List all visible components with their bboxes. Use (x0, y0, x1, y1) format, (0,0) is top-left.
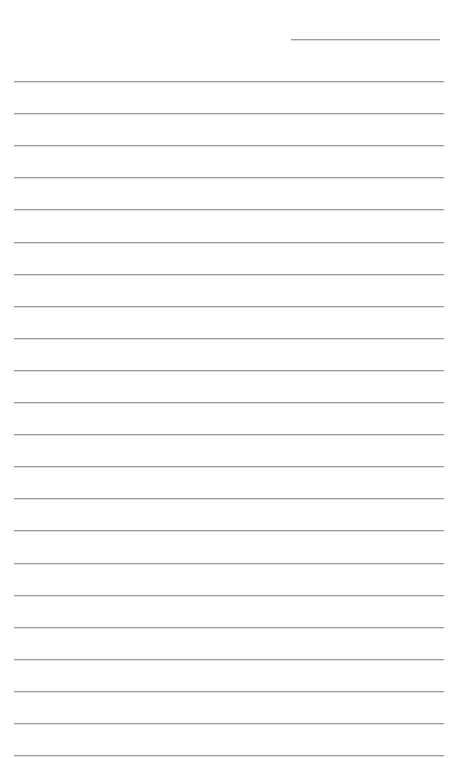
rule-line[interactable] (14, 402, 444, 403)
writing-area (0, 0, 460, 758)
rule-line[interactable] (14, 274, 444, 275)
rule-line[interactable] (14, 627, 444, 628)
date-rule[interactable] (291, 39, 440, 40)
rule-line[interactable] (14, 563, 444, 564)
rule-line[interactable] (14, 242, 444, 243)
rule-line[interactable] (14, 177, 444, 178)
rule-line[interactable] (14, 113, 444, 114)
rule-line[interactable] (14, 755, 444, 756)
rule-line[interactable] (14, 81, 444, 82)
rule-line[interactable] (14, 595, 444, 596)
rule-line[interactable] (14, 723, 444, 724)
rule-line[interactable] (14, 434, 444, 435)
rule-line[interactable] (14, 338, 444, 339)
rule-line[interactable] (14, 209, 444, 210)
note-page (0, 0, 460, 758)
rule-line[interactable] (14, 691, 444, 692)
rule-line[interactable] (14, 498, 444, 499)
rule-line[interactable] (14, 145, 444, 146)
rule-line[interactable] (14, 466, 444, 467)
rule-line[interactable] (14, 659, 444, 660)
rule-line[interactable] (14, 306, 444, 307)
rule-line[interactable] (14, 370, 444, 371)
rule-line[interactable] (14, 530, 444, 531)
